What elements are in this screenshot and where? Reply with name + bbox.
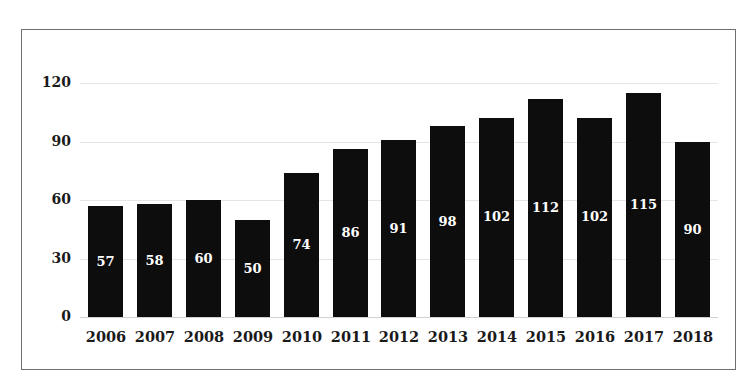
x-tick-label: 2009 bbox=[228, 328, 278, 345]
bar-2007: 58 bbox=[137, 204, 172, 317]
bar-2018: 90 bbox=[675, 142, 710, 318]
bar-chart: 0306090120572006582007602008502009742010… bbox=[0, 0, 753, 390]
x-tick-label: 2008 bbox=[179, 328, 229, 345]
bar-value-label: 102 bbox=[479, 209, 514, 224]
x-tick-label: 2011 bbox=[326, 328, 376, 345]
bar-value-label: 74 bbox=[284, 237, 319, 252]
bar-2015: 112 bbox=[528, 99, 563, 317]
x-tick-label: 2006 bbox=[81, 328, 131, 345]
bar-2010: 74 bbox=[284, 173, 319, 317]
bar-2016: 102 bbox=[577, 118, 612, 317]
y-tick-label: 120 bbox=[21, 74, 71, 90]
bar-2011: 86 bbox=[333, 149, 368, 317]
bar-value-label: 91 bbox=[381, 221, 416, 236]
bar-value-label: 60 bbox=[186, 251, 221, 266]
bar-2006: 57 bbox=[88, 206, 123, 317]
bar-value-label: 112 bbox=[528, 200, 563, 215]
x-tick-label: 2012 bbox=[374, 328, 424, 345]
bar-value-label: 102 bbox=[577, 209, 612, 224]
bar-value-label: 90 bbox=[675, 222, 710, 237]
bar-value-label: 98 bbox=[430, 214, 465, 229]
x-tick-label: 2015 bbox=[521, 328, 571, 345]
bar-2013: 98 bbox=[430, 126, 465, 317]
x-tick-label: 2013 bbox=[423, 328, 473, 345]
bar-2012: 91 bbox=[381, 140, 416, 317]
bar-2014: 102 bbox=[479, 118, 514, 317]
bar-2017: 115 bbox=[626, 93, 661, 317]
bar-value-label: 57 bbox=[88, 254, 123, 269]
bar-value-label: 58 bbox=[137, 253, 172, 268]
y-tick-label: 30 bbox=[21, 250, 71, 266]
x-tick-label: 2016 bbox=[570, 328, 620, 345]
bar-2009: 50 bbox=[235, 220, 270, 318]
bar-value-label: 50 bbox=[235, 261, 270, 276]
x-tick-label: 2007 bbox=[130, 328, 180, 345]
y-tick-label: 60 bbox=[21, 191, 71, 207]
bar-2008: 60 bbox=[186, 200, 221, 317]
bar-value-label: 115 bbox=[626, 197, 661, 212]
gridline bbox=[80, 83, 718, 84]
y-tick-label: 0 bbox=[21, 308, 71, 324]
x-tick-label: 2018 bbox=[668, 328, 718, 345]
x-axis-line bbox=[80, 317, 718, 318]
bar-value-label: 86 bbox=[333, 225, 368, 240]
y-tick-label: 90 bbox=[21, 133, 71, 149]
x-tick-label: 2010 bbox=[277, 328, 327, 345]
x-tick-label: 2017 bbox=[619, 328, 669, 345]
x-tick-label: 2014 bbox=[472, 328, 522, 345]
